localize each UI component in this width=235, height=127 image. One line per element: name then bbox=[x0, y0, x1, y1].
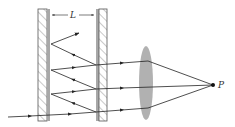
focal-point bbox=[211, 83, 215, 87]
incident-ray bbox=[8, 116, 30, 117]
reflected-rays bbox=[73, 103, 96, 112]
left-plate bbox=[38, 9, 50, 121]
spacing-dimension: L bbox=[52, 10, 94, 20]
focal-point-label: P bbox=[217, 80, 225, 90]
fabry-perot-diagram: L P bbox=[0, 0, 235, 127]
left-plate-coating bbox=[47, 9, 50, 121]
spacing-label: L bbox=[69, 10, 76, 20]
